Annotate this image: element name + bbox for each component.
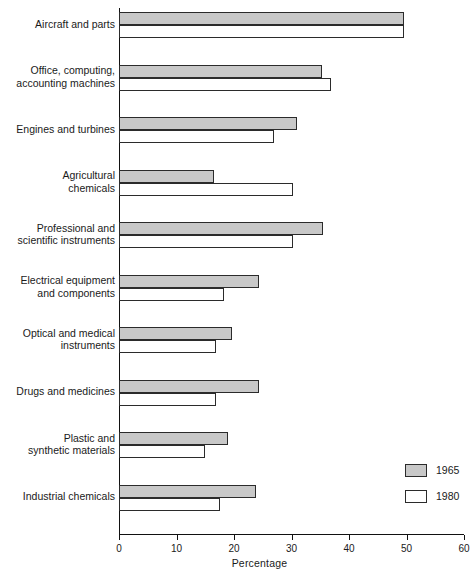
x-tick-40 [349,535,350,540]
x-tick-0 [119,535,120,540]
category-label: Electrical equipmentand components [7,274,119,299]
x-tick-label-0: 0 [104,543,134,555]
category-label-line: Optical and medical [7,327,115,340]
bar-1965 [119,170,214,183]
bar-1980 [119,235,293,248]
legend-swatch-1965 [405,464,427,477]
category-label-line: Electrical equipment [7,274,115,287]
category-label-line: Engines and turbines [7,123,115,136]
category-label-line: Plastic and [7,432,115,445]
bar-1980 [119,183,293,196]
category-label-column: Aircraft and partsOffice, computing,acco… [0,0,119,535]
legend-label-1980: 1980 [436,490,459,502]
category-label-line: Agricultural [7,169,115,182]
plot-area [119,8,464,535]
bar-1965 [119,222,323,235]
bar-1980 [119,498,220,511]
x-tick-20 [234,535,235,540]
bar-1965 [119,117,297,130]
bar-1965 [119,65,322,78]
category-label-line: and components [7,287,115,300]
x-axis-title: Percentage [0,557,475,569]
category-label-line: scientific instruments [7,234,115,247]
category-label: Industrial chemicals [7,490,119,503]
bar-1980 [119,130,274,143]
category-label: Professional andscientific instruments [7,222,119,247]
x-tick-label-60: 60 [449,543,475,555]
x-tick-label-40: 40 [334,543,364,555]
x-tick-10 [177,535,178,540]
category-label: Aircraft and parts [7,18,119,31]
bar-1965 [119,485,256,498]
bar-1965 [119,275,259,288]
bar-1980 [119,25,404,38]
legend-item-1980: 1980 [405,488,471,504]
bar-1965 [119,12,404,25]
x-tick-50 [407,535,408,540]
x-tick-label-10: 10 [162,543,192,555]
x-tick-label-30: 30 [277,543,307,555]
bar-chart: Aircraft and partsOffice, computing,acco… [0,0,475,572]
category-label-line: Office, computing, [7,64,115,77]
bar-1965 [119,380,259,393]
bar-1980 [119,445,205,458]
x-tick-60 [464,535,465,540]
category-label: Drugs and medicines [7,385,119,398]
legend-item-1965: 1965 [405,462,471,478]
category-label-line: Drugs and medicines [7,385,115,398]
bar-1980 [119,340,216,353]
category-label: Office, computing,accounting machines [7,64,119,89]
bar-1965 [119,432,228,445]
category-label: Optical and medicalinstruments [7,327,119,352]
x-tick-label-50: 50 [392,543,422,555]
legend: 1965 1980 [405,462,471,514]
category-label: Agriculturalchemicals [7,169,119,194]
category-label-line: accounting machines [7,77,115,90]
category-label-line: Professional and [7,222,115,235]
category-label: Engines and turbines [7,123,119,136]
x-axis-title-text: Percentage [232,557,288,569]
category-label-line: synthetic materials [7,444,115,457]
x-tick-30 [292,535,293,540]
legend-swatch-1980 [405,490,427,503]
category-label-line: instruments [7,339,115,352]
category-label-line: Aircraft and parts [7,18,115,31]
category-label-line: chemicals [7,182,115,195]
bar-1965 [119,327,232,340]
bar-1980 [119,393,216,406]
bar-1980 [119,78,331,91]
category-label: Plastic andsynthetic materials [7,432,119,457]
x-tick-label-20: 20 [219,543,249,555]
category-label-line: Industrial chemicals [7,490,115,503]
legend-label-1965: 1965 [436,464,459,476]
bar-1980 [119,288,224,301]
